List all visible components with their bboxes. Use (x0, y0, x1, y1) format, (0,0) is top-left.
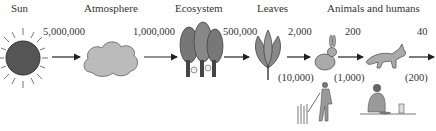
flow-value-4: 2,000 (288, 26, 312, 37)
farmer-icon (298, 82, 332, 124)
stage-label-leaves: Leaves (257, 2, 288, 14)
human-value-4: (10,000) (278, 72, 314, 83)
cloud-icon (84, 42, 137, 77)
flow-value-5: 200 (345, 26, 361, 37)
flow-value-2: 1,000,000 (133, 26, 175, 37)
leaves-icon (255, 30, 280, 80)
stage-label-atmosphere: Atmosphere (84, 2, 138, 14)
flow-value-3: 500,000 (223, 26, 257, 37)
forest-icon (180, 22, 223, 77)
stage-label-animals-humans: Animals and humans (327, 2, 420, 14)
fox-icon (366, 44, 406, 68)
flow-value-6: 40 (417, 26, 428, 37)
stage-label-sun: Sun (11, 2, 28, 14)
energy-flow-diagram (0, 0, 436, 131)
sun-icon (0, 28, 48, 88)
flow-value-1: 5,000,000 (43, 26, 85, 37)
human-value-6: (200) (405, 72, 428, 83)
human-value-5: (1,000) (334, 72, 365, 83)
stage-label-ecosystem: Ecosystem (175, 2, 223, 14)
person-eating-icon (360, 84, 416, 115)
rabbit-icon (315, 35, 337, 70)
